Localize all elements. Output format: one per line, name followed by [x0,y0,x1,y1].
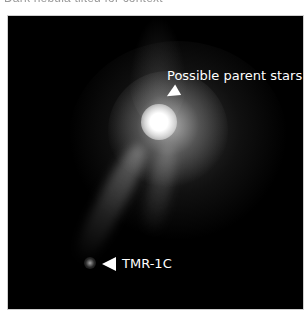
parent-stars-label: Possible parent stars [167,68,302,83]
dust-streak-secondary [140,144,180,237]
triangle-pointer-left-icon [102,257,116,271]
astronomy-image: Possible parent stars TMR-1C [7,15,304,310]
triangle-pointer-icon [164,85,181,102]
tmr-1c-label: TMR-1C [122,256,172,271]
parent-stars-core [141,104,177,140]
clipped-caption: Dark nebula tilted for context [4,0,163,5]
dust-streak [68,140,152,267]
